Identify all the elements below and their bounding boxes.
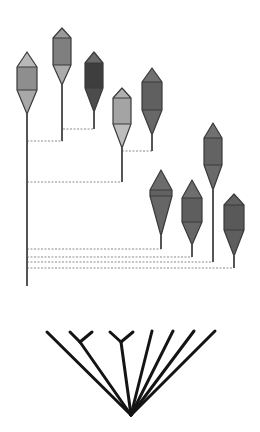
spindle-5	[142, 68, 162, 135]
cladogram-tree	[47, 331, 215, 415]
spindle-3	[85, 52, 103, 112]
spindle-diagram	[0, 0, 260, 432]
spindle-4	[113, 88, 131, 148]
spindle-7	[182, 180, 202, 245]
cladogram-branch-7	[131, 331, 215, 415]
spindle-8	[204, 123, 222, 190]
spindle-2	[53, 28, 71, 85]
spindle-1	[17, 52, 37, 114]
spindle-6	[150, 170, 172, 236]
spindle-9	[224, 194, 244, 256]
spindle-shapes	[17, 28, 244, 256]
cladogram-branch-5	[131, 331, 173, 415]
cladogram-branch-1	[47, 332, 131, 415]
dashed-connectors	[27, 129, 234, 268]
